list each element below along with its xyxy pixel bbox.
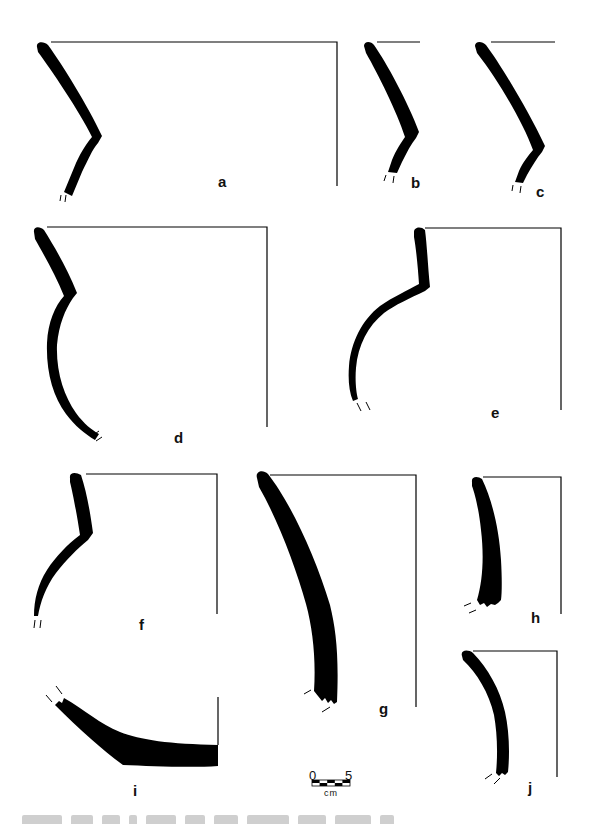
profile-f: f (34, 473, 217, 633)
figure-caption-truncated (22, 815, 582, 824)
diameter-line-a (51, 42, 337, 186)
label-a: a (218, 173, 227, 190)
break-marks-i (46, 686, 62, 702)
label-i: i (133, 782, 137, 799)
diameter-line-g (270, 475, 416, 707)
sherd-d-section (34, 227, 99, 440)
sherd-e-section (349, 228, 430, 401)
sherd-i-section (55, 698, 218, 767)
sherd-j-section (462, 651, 509, 776)
label-g: g (379, 700, 388, 717)
profile-j: j (462, 651, 557, 796)
label-b: b (411, 174, 420, 191)
profile-c: c (475, 42, 555, 200)
diameter-line-f (86, 474, 217, 614)
break-marks-b (384, 175, 394, 183)
break-marks-j (485, 774, 500, 784)
sherd-f-section (34, 473, 93, 616)
sherd-profiles-figure: a b c d e f g (0, 0, 592, 824)
sherd-g-section (257, 471, 338, 704)
break-marks-a (60, 195, 66, 202)
diameter-line-e (425, 228, 561, 410)
label-d: d (174, 429, 183, 446)
label-f: f (139, 616, 145, 633)
break-marks-h (464, 603, 476, 613)
profile-b: b (364, 42, 420, 191)
diameter-line-d (47, 227, 267, 427)
scale-unit-label: cm (324, 788, 338, 798)
label-h: h (531, 609, 540, 626)
sherd-c-section (475, 42, 545, 183)
label-c: c (536, 183, 544, 200)
profile-g: g (257, 471, 416, 717)
sherd-b-section (364, 42, 419, 173)
profile-d: d (34, 227, 267, 446)
profile-h: h (464, 477, 561, 626)
profile-e: e (349, 228, 561, 421)
break-marks-f (34, 620, 41, 628)
break-marks-e (357, 402, 370, 411)
break-marks-c (512, 185, 521, 193)
profile-a: a (37, 42, 337, 202)
label-e: e (491, 404, 499, 421)
profile-i: i (46, 686, 218, 799)
label-j: j (527, 779, 532, 796)
sherd-h-section (472, 477, 502, 607)
scale-bar: 0 5 cm (309, 768, 352, 798)
sherd-a-section (37, 42, 102, 196)
